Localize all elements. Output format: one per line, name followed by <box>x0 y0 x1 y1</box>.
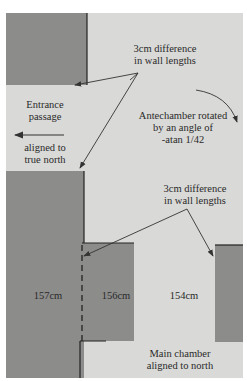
antechamber-label: Antechamber rotated by an angle of -atan… <box>128 110 238 146</box>
entrance-label: Entrance passage <box>10 99 80 123</box>
arrow-bottom-left <box>84 209 187 256</box>
top-diff-label: 3cm difference in wall lengths <box>110 43 220 67</box>
main-chamber-label: Main chamber aligned to north <box>130 348 230 372</box>
wall-length-154: 154cm <box>162 290 206 302</box>
entrance-alignment-label: aligned to true north <box>10 142 80 166</box>
arrow-bottom-right <box>187 209 213 256</box>
arrow-top-upper <box>75 73 138 85</box>
wall-length-156: 156cm <box>94 290 138 302</box>
wall-length-157: 157cm <box>26 290 70 302</box>
bottom-diff-label: 3cm difference in wall lengths <box>145 183 245 207</box>
